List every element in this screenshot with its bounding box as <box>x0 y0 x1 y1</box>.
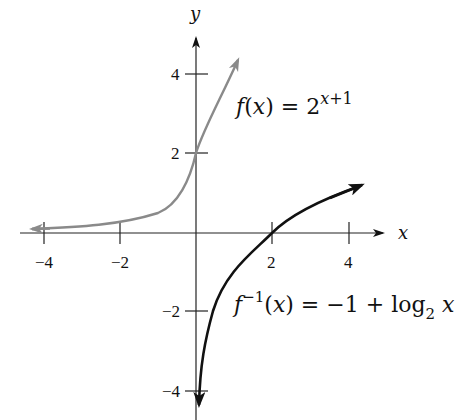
curve-f <box>32 60 238 229</box>
x-tick-label: −4 <box>35 253 54 272</box>
f-inverse-label: f−1(x) = −1 + log2 x <box>232 288 455 323</box>
y-tick-label: 2 <box>171 144 180 163</box>
f-label: f(x) = 2x+1 <box>234 89 353 119</box>
x-axis-label: x <box>398 222 408 243</box>
y-tick-label: 4 <box>171 65 180 84</box>
x-tick-label: 4 <box>344 253 353 272</box>
y-tick-label: −4 <box>162 382 181 401</box>
curve-f-tail-arrow <box>32 229 50 230</box>
x-tick-label: −2 <box>111 253 129 272</box>
y-tick-label: −2 <box>162 302 180 321</box>
function-graph: −4 −2 2 4 4 2 −2 −4 x y f(x) = 2x+1 f−1(… <box>0 0 455 420</box>
y-axis-label: y <box>189 3 201 24</box>
x-tick-label: 2 <box>267 253 276 272</box>
curve-f-inverse-head-arrow <box>330 185 362 198</box>
